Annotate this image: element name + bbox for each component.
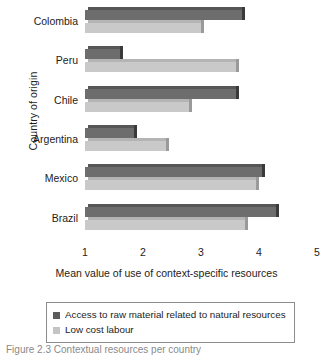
bar-top-face [88,46,120,49]
bar-front-face [85,10,242,20]
bar-side-face [256,177,259,190]
legend-swatch-icon [53,327,60,334]
category-row: Mexico [85,163,317,193]
bar-light[interactable] [85,20,201,33]
bar-top-face [88,99,189,102]
bar-side-face [166,138,169,151]
bar-dark[interactable] [85,164,262,177]
y-axis-tick-label: Colombia [34,16,78,27]
bar-dark[interactable] [85,86,236,99]
bar-top-face [88,177,256,180]
bar-dark[interactable] [85,7,242,20]
bar-top-face [88,125,134,128]
legend-item[interactable]: Access to raw material related to natura… [53,308,288,322]
bar-dark[interactable] [85,46,120,59]
x-axis-title: Mean value of use of context-specific re… [0,267,333,279]
bar-top-face [88,204,276,207]
bar-side-face [276,204,279,217]
category-row: Chile [85,85,317,115]
legend-swatch-icon [53,312,60,319]
x-axis-tick-label: 4 [256,246,262,258]
bar-side-face [262,164,265,177]
bar-side-face [120,46,123,59]
bar-light[interactable] [85,99,189,112]
bar-side-face [201,20,204,33]
plot-area: ColombiaPeruChileArgentinaMexicoBrazil [85,6,317,242]
bar-top-face [88,20,201,23]
y-axis-tick-label: Mexico [45,173,78,184]
bar-side-face [242,7,245,20]
bar-front-face [85,207,276,217]
category-row: Brazil [85,203,317,233]
category-row: Peru [85,45,317,75]
y-axis-tick-label: Peru [56,55,78,66]
bar-top-face [88,138,166,141]
bar-top-face [88,217,245,220]
bar-front-face [85,102,189,112]
bar-front-face [85,49,120,59]
bar-side-face [245,217,248,230]
bar-front-face [85,23,201,33]
bar-light[interactable] [85,138,166,151]
category-row: Argentina [85,124,317,154]
bar-light[interactable] [85,177,256,190]
bar-top-face [88,86,236,89]
bar-light[interactable] [85,217,245,230]
bar-front-face [85,89,236,99]
bar-side-face [236,86,239,99]
bar-front-face [85,62,236,72]
bar-dark[interactable] [85,204,276,217]
legend-label: Low cost labour [65,325,134,335]
chart-legend: Access to raw material related to natura… [46,302,295,343]
category-row: Colombia [85,6,317,36]
bar-front-face [85,128,134,138]
legend-label: Access to raw material related to natura… [65,310,286,320]
y-axis-tick-label: Chile [54,94,78,105]
x-axis-tick-label: 3 [198,246,204,258]
figure-caption: Figure 2.3 Contextual resources per coun… [6,344,333,355]
bar-side-face [236,59,239,72]
bar-dark[interactable] [85,125,134,138]
bar-front-face [85,220,245,230]
bar-side-face [189,99,192,112]
y-axis-title: Country of origin [27,31,39,191]
legend-item[interactable]: Low cost labour [53,323,288,337]
bar-front-face [85,180,256,190]
bar-top-face [88,164,262,167]
x-axis-tick-label: 2 [140,246,146,258]
bar-side-face [134,125,137,138]
x-axis: 12345 [85,242,317,243]
x-axis-tick-label: 1 [82,246,88,258]
bar-top-face [88,59,236,62]
bar-light[interactable] [85,59,236,72]
y-axis-tick-label: Brazil [52,212,78,223]
y-axis-tick-label: Argentina [33,134,78,145]
bar-top-face [88,7,242,10]
x-axis-tick-label: 5 [314,246,320,258]
bar-front-face [85,141,166,151]
bar-front-face [85,167,262,177]
